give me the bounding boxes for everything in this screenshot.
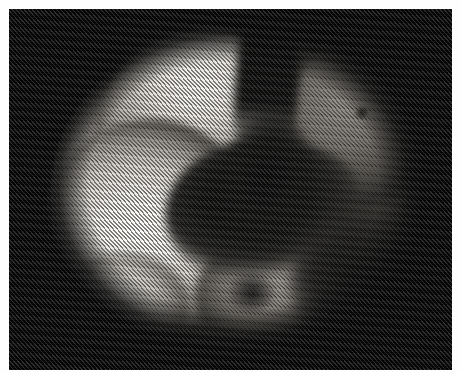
specimen-body [39,21,421,351]
limb-vignette [39,21,421,351]
border-left [0,0,9,373]
photo-plate [9,9,452,370]
border-right [452,0,462,373]
border-top [0,0,462,9]
image-page [0,0,462,373]
